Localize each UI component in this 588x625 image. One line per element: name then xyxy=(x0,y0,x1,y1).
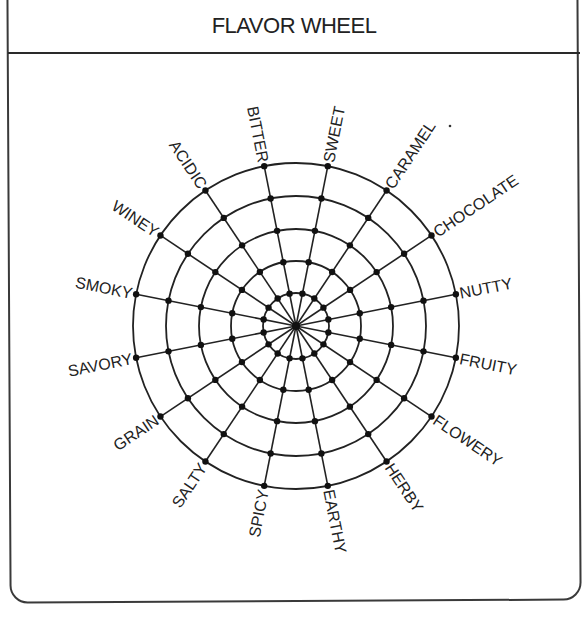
node-dot xyxy=(286,290,292,296)
label-bitter: BITTER xyxy=(244,105,272,164)
node-dot xyxy=(229,310,235,316)
node-dot xyxy=(239,359,245,365)
node-dot xyxy=(357,310,363,316)
hub-dot xyxy=(292,322,300,330)
node-dot xyxy=(373,269,379,275)
node-dot xyxy=(357,335,363,341)
node-dot xyxy=(373,377,379,383)
node-dot xyxy=(347,359,353,365)
node-dot xyxy=(420,297,426,303)
node-dot xyxy=(305,387,311,393)
node-dot xyxy=(325,329,331,335)
node-dot xyxy=(239,242,245,248)
node-dot xyxy=(260,329,266,335)
node-dot xyxy=(265,341,271,347)
node-dot xyxy=(198,304,204,310)
node-dot xyxy=(320,304,326,310)
label-spicy: SPICY xyxy=(246,488,272,539)
node-dot xyxy=(329,377,335,383)
node-dot xyxy=(265,304,271,310)
node-dot xyxy=(274,418,280,424)
node-dot xyxy=(212,269,218,275)
label-acidic: ACIDIC xyxy=(166,137,210,192)
node-dot xyxy=(133,355,139,361)
node-dot xyxy=(202,187,208,193)
node-dot xyxy=(388,304,394,310)
label-caramel: CARAMEL xyxy=(382,118,439,192)
node-dot xyxy=(229,335,235,341)
label-sweet: SWEET xyxy=(320,105,348,164)
label-grain: GRAIN xyxy=(110,412,162,454)
node-dot xyxy=(221,431,227,437)
node-dot xyxy=(305,259,311,265)
node-dot xyxy=(257,377,263,383)
node-dot xyxy=(202,458,208,464)
node-dot xyxy=(388,342,394,348)
node-dot xyxy=(239,287,245,293)
node-dot xyxy=(365,431,371,437)
node-dot xyxy=(165,348,171,354)
node-dot xyxy=(239,403,245,409)
node-dot xyxy=(420,348,426,354)
label-salty: SALTY xyxy=(169,460,211,511)
node-dot xyxy=(261,483,267,489)
stray-mark xyxy=(449,125,452,128)
node-dot xyxy=(221,215,227,221)
node-dot xyxy=(401,251,407,257)
node-dot xyxy=(311,350,317,356)
label-flowery: FLOWERY xyxy=(430,412,505,470)
node-dot xyxy=(347,242,353,248)
node-dot xyxy=(325,316,331,322)
node-dot xyxy=(133,291,139,297)
node-dot xyxy=(299,290,305,296)
label-smoky: SMOKY xyxy=(74,274,134,302)
node-dot xyxy=(299,355,305,361)
label-fruity: FRUITY xyxy=(458,350,518,378)
node-dot xyxy=(347,403,353,409)
node-dot xyxy=(325,483,331,489)
label-chocolate: CHOCOLATE xyxy=(430,171,521,240)
node-dot xyxy=(157,413,163,419)
node-dot xyxy=(280,387,286,393)
node-dot xyxy=(260,316,266,322)
node-dot xyxy=(318,450,324,456)
node-dot xyxy=(312,418,318,424)
node-dot xyxy=(185,395,191,401)
node-dot xyxy=(185,251,191,257)
node-dot xyxy=(274,350,280,356)
label-herby: HERBY xyxy=(382,460,427,516)
node-dot xyxy=(318,195,324,201)
node-dot xyxy=(274,228,280,234)
node-dot xyxy=(365,215,371,221)
node-dot xyxy=(267,450,273,456)
label-nutty: NUTTY xyxy=(458,275,514,302)
node-dot xyxy=(320,341,326,347)
node-dot xyxy=(311,295,317,301)
node-dot xyxy=(257,269,263,275)
node-dot xyxy=(401,395,407,401)
node-dot xyxy=(165,297,171,303)
node-dot xyxy=(329,269,335,275)
node-dot xyxy=(267,195,273,201)
label-earthy: EARTHY xyxy=(320,488,349,555)
node-dot xyxy=(325,163,331,169)
node-dot xyxy=(286,355,292,361)
node-dot xyxy=(274,295,280,301)
label-winey: WINEY xyxy=(109,197,162,240)
label-savory: SAVORY xyxy=(67,350,135,379)
node-dot xyxy=(312,228,318,234)
node-dot xyxy=(453,291,459,297)
node-dot xyxy=(198,342,204,348)
node-dot xyxy=(347,287,353,293)
node-dot xyxy=(453,355,459,361)
node-dot xyxy=(212,377,218,383)
wheel-nodes xyxy=(133,163,459,489)
node-dot xyxy=(280,259,286,265)
node-dot xyxy=(157,232,163,238)
node-dot xyxy=(261,163,267,169)
flavor-wheel-diagram: NUTTYCHOCOLATECARAMELSWEETBITTERACIDICWI… xyxy=(0,0,588,625)
